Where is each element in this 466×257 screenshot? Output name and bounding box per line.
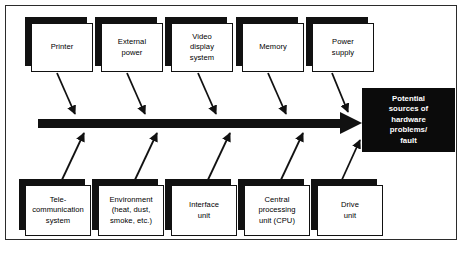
effect-box-label: Potential sources of hardware problems/ … (385, 94, 432, 147)
cause-box-interface-unit[interactable]: Interface unit (171, 185, 237, 236)
cause-box-label-central-processing-unit: Central processing unit (CPU) (255, 195, 298, 227)
fishbone-diagram-canvas: Printer External power Video display sys… (0, 0, 466, 257)
cause-box-environment[interactable]: Environment (heat, dust, smoke, etc.) (98, 185, 164, 236)
cause-box-label-environment: Environment (heat, dust, smoke, etc.) (106, 195, 155, 227)
cause-box-label-interface-unit: Interface unit (186, 200, 222, 221)
cause-box-label-drive-unit: Drive unit (338, 200, 362, 221)
spine-arrowhead-icon (340, 112, 362, 134)
cause-box-label-memory: Memory (256, 42, 290, 53)
cause-box-memory[interactable]: Memory (242, 23, 304, 72)
cause-box-telecommunication-system[interactable]: Tele- communication system (25, 185, 91, 236)
cause-box-printer[interactable]: Printer (31, 23, 93, 72)
spine-bar (38, 119, 341, 128)
cause-box-label-external-power: External power (115, 37, 149, 58)
cause-box-label-telecommunication-system: Tele- communication system (29, 195, 87, 227)
cause-box-external-power[interactable]: External power (101, 23, 163, 72)
cause-box-drive-unit[interactable]: Drive unit (317, 185, 383, 236)
cause-box-central-processing-unit[interactable]: Central processing unit (CPU) (244, 185, 310, 236)
cause-box-label-video-display-system: Video display system (187, 32, 217, 64)
cause-box-label-printer: Printer (48, 42, 77, 53)
cause-box-video-display-system[interactable]: Video display system (171, 23, 233, 72)
cause-box-power-supply[interactable]: Power supply (312, 23, 374, 72)
cause-box-label-power-supply: Power supply (329, 37, 357, 58)
effect-box[interactable]: Potential sources of hardware problems/ … (362, 88, 455, 152)
